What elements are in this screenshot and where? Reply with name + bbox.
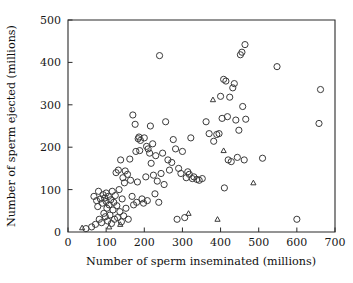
data-point-triangle [210, 97, 215, 102]
data-point-circle [123, 205, 129, 211]
data-point-circle [163, 119, 169, 125]
data-point-triangle [107, 224, 112, 229]
data-point-circle [158, 170, 164, 176]
data-point-circle [234, 154, 240, 160]
data-point-circle [230, 85, 236, 91]
data-point-circle [242, 41, 248, 47]
data-point-triangle [186, 211, 191, 216]
x-tick-label: 500 [248, 236, 269, 249]
x-tick-label: 100 [96, 236, 117, 249]
data-point-circle [119, 196, 125, 202]
data-point-circle [241, 157, 247, 163]
data-point-circle [147, 150, 153, 156]
y-tick-label: 500 [40, 14, 61, 27]
x-tick-label: 400 [210, 236, 231, 249]
data-points [80, 41, 324, 231]
data-point-circle [116, 187, 122, 193]
x-tick-label: 600 [286, 236, 307, 249]
data-point-circle [221, 185, 227, 191]
data-point-circle [156, 53, 162, 59]
y-tick-label: 300 [40, 99, 61, 112]
data-point-circle [174, 216, 180, 222]
y-tick-label: 400 [40, 56, 61, 69]
data-point-triangle [221, 148, 226, 153]
data-point-circle [203, 119, 209, 125]
data-point-circle [152, 191, 158, 197]
data-point-circle [148, 160, 154, 166]
data-point-circle [143, 174, 149, 180]
data-point-circle [243, 116, 249, 122]
data-point-circle [153, 153, 159, 159]
data-point-circle [316, 120, 322, 126]
data-point-triangle [215, 217, 220, 222]
data-point-circle [147, 123, 153, 129]
data-point-circle [233, 117, 239, 123]
data-point-circle [172, 146, 178, 152]
chart-canvas: 0100200300400500600700 0100200300400500 … [0, 0, 353, 283]
data-point-circle [178, 170, 184, 176]
data-point-circle [211, 138, 217, 144]
data-point-circle [166, 167, 172, 173]
data-point-circle [127, 156, 133, 162]
data-point-circle [154, 178, 160, 184]
data-point-circle [127, 177, 133, 183]
data-point-circle [240, 103, 246, 109]
data-point-circle [217, 93, 223, 99]
data-point-circle [294, 216, 300, 222]
x-tick-label: 200 [134, 236, 155, 249]
data-point-circle [112, 192, 118, 198]
x-axis-label: Number of sperm inseminated (millions) [86, 255, 316, 268]
y-axis-label: Number of sperm ejected (millions) [5, 25, 18, 227]
data-point-circle [156, 199, 162, 205]
data-point-triangle [251, 180, 256, 185]
data-point-circle [137, 147, 143, 153]
data-point-circle [188, 135, 194, 141]
data-point-circle [129, 193, 135, 199]
y-tick-label: 100 [40, 184, 61, 197]
data-point-circle [231, 81, 237, 87]
data-point-circle [150, 172, 156, 178]
scatter-plot-figure: 0100200300400500600700 0100200300400500 … [0, 0, 353, 283]
data-point-circle [161, 181, 167, 187]
x-axis-ticks: 0100200300400500600700 [65, 228, 346, 250]
data-point-circle [150, 141, 156, 147]
data-point-circle [317, 86, 323, 92]
data-point-circle [259, 155, 265, 161]
data-point-circle [130, 112, 136, 118]
data-point-circle [227, 94, 233, 100]
data-point-circle [236, 127, 242, 133]
data-point-circle [206, 131, 212, 137]
data-point-circle [170, 136, 176, 142]
data-point-circle [159, 150, 165, 156]
y-tick-label: 200 [40, 141, 61, 154]
x-tick-label: 700 [325, 236, 346, 249]
data-point-circle [125, 216, 131, 222]
data-point-circle [274, 64, 280, 70]
data-point-circle [109, 188, 115, 194]
x-tick-label: 0 [65, 236, 72, 249]
data-point-circle [134, 179, 140, 185]
data-point-circle [118, 157, 124, 163]
x-tick-label: 300 [172, 236, 193, 249]
y-tick-label: 0 [54, 226, 61, 239]
data-point-circle [132, 121, 138, 127]
data-point-circle [179, 148, 185, 154]
